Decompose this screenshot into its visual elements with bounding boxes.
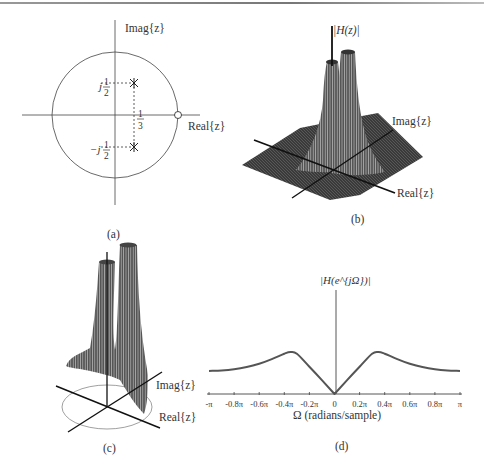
imag-axis-label: Imag{z} bbox=[125, 22, 165, 35]
real-label-c: Real{z} bbox=[159, 411, 196, 423]
pole-upper-marker bbox=[130, 78, 138, 88]
zero-marker bbox=[175, 112, 182, 119]
x-label: Ω (radians/sample) bbox=[293, 409, 381, 422]
panel-d-magnitude-chart: -π-0.8π-0.6π-0.4π-0.2π00.2π0.4π0.6π0.8ππ… bbox=[205, 274, 462, 453]
x-tick-label: -0.4π bbox=[275, 399, 293, 409]
x-tick-label: π bbox=[458, 399, 463, 409]
half-den-upper: 2 bbox=[104, 88, 109, 98]
pole-lower-marker bbox=[130, 142, 138, 152]
half-den-lower: 2 bbox=[104, 151, 109, 161]
panel-a-pole-zero: Imag{z} Real{z} j 1 2 1 3 −j 1 2 (a) bbox=[22, 20, 225, 241]
third-den: 3 bbox=[138, 121, 143, 131]
x-tick-label: -0.8π bbox=[225, 399, 243, 409]
y-label: |H(e^{jΩ})| bbox=[320, 274, 371, 287]
caption-d: (d) bbox=[335, 440, 349, 453]
x-tick-label: 0 bbox=[332, 399, 336, 409]
x-tick-label: -0.6π bbox=[250, 399, 268, 409]
caption-b: (b) bbox=[351, 213, 365, 226]
peak-cap-right-c bbox=[120, 243, 137, 248]
half-num-upper: 1 bbox=[104, 77, 109, 87]
peak-cap-right bbox=[341, 50, 355, 55]
figure-canvas: Imag{z} Real{z} j 1 2 1 3 −j 1 2 (a) bbox=[0, 0, 484, 467]
x-tick-label: -0.2π bbox=[301, 399, 319, 409]
panel-b-surface: |H(z)| Imag{z} Real{z} (b) bbox=[242, 24, 434, 226]
half-num-lower: 1 bbox=[104, 140, 109, 150]
x-tick-label: 0.8π bbox=[427, 399, 443, 409]
pole-lower-j: −j bbox=[90, 143, 100, 155]
panel-c-surface: Imag{z} Real{z} (c) bbox=[56, 243, 196, 456]
imag-label-c: Imag{z} bbox=[156, 379, 196, 392]
magnitude-curve bbox=[209, 352, 460, 394]
x-tick-label: 0.2π bbox=[352, 399, 368, 409]
third-num: 1 bbox=[138, 109, 143, 119]
x-tick-labels: -π-0.8π-0.6π-0.4π-0.2π00.2π0.4π0.6π0.8ππ bbox=[205, 399, 462, 409]
real-label-b: Real{z} bbox=[397, 187, 434, 199]
imag-label-b: Imag{z} bbox=[392, 115, 432, 128]
x-tick-label: -π bbox=[205, 399, 213, 409]
pole-upper-j: j bbox=[97, 80, 102, 92]
x-tick-label: 0.6π bbox=[402, 399, 418, 409]
caption-a: (a) bbox=[107, 228, 120, 241]
real-axis-label: Real{z} bbox=[188, 120, 225, 132]
hz-label: |H(z)| bbox=[333, 24, 360, 37]
x-tick-label: 0.4π bbox=[377, 399, 393, 409]
caption-c: (c) bbox=[103, 442, 116, 455]
